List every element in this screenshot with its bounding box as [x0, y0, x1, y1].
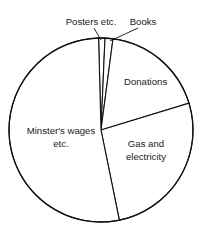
slice-label-gas-and-electricity: Gas andelectricity [126, 138, 166, 162]
slice-label-line: Donations [124, 76, 167, 87]
slice-label-line: Minster's wages [27, 125, 96, 136]
pie-chart-figure: Posters etc.BooksDonationsGas andelectri… [0, 0, 205, 240]
slice-label-line: Posters etc. [66, 16, 117, 27]
slice-label-line: etc. [53, 137, 68, 148]
slice-label-line: electricity [126, 150, 166, 161]
slice-label-line: Gas and [128, 138, 164, 149]
slice-label-donations: Donations [124, 76, 167, 87]
slice-label-posters-etc: Posters etc. [66, 16, 117, 27]
pie-chart-svg: Posters etc.BooksDonationsGas andelectri… [0, 0, 205, 240]
slice-label-line: Books [130, 16, 157, 27]
slice-label-books: Books [130, 16, 157, 27]
leader-line-books [110, 28, 138, 41]
